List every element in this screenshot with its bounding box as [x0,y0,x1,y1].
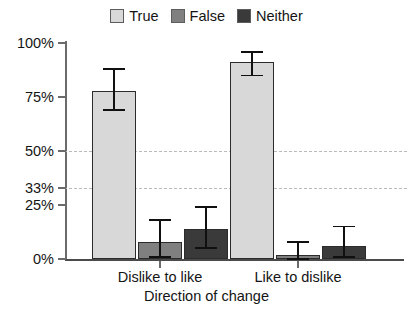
x-axis-line [65,259,404,261]
plot-area: 100%75%50%33%25%0% Dislike to likeLike t… [0,0,413,314]
bar-true-group-2 [230,62,274,259]
error-bar-stem [113,69,115,110]
error-bar-cap-lower [195,247,217,249]
error-bar-cap-lower [103,109,125,111]
error-bar-stem [251,52,253,76]
y-axis-tick [58,42,66,44]
error-bar-stem [343,227,345,257]
error-bar-cap-upper [149,219,171,221]
x-axis-tick [297,261,299,268]
x-axis-category-label: Dislike to like [118,270,203,285]
y-axis-tick-label: 33% [25,181,54,195]
y-axis-tick-label: 25% [25,198,54,212]
error-bar-cap-upper [333,226,355,228]
error-bar-stem [297,242,299,259]
y-axis-tick-label: 0% [33,252,54,266]
y-axis-tick-label: 100% [17,36,54,50]
error-bar-cap-upper [287,241,309,243]
bar-chart-figure: True False Neither 100%75%50%33%25%0% Di… [0,0,413,314]
y-axis-tick [58,187,66,189]
x-axis-title: Direction of change [0,289,413,304]
error-bar-cap-lower [241,75,263,77]
error-bar-cap-lower [333,256,355,258]
y-axis-tick-label: 75% [25,90,54,104]
y-axis-tick [58,258,66,260]
y-axis-tick [58,96,66,98]
error-bar-stem [205,207,207,248]
x-axis-tick [159,261,161,268]
y-axis-tick-label: 50% [25,144,54,158]
error-bar-cap-upper [195,206,217,208]
y-axis-tick [58,204,66,206]
error-bar-cap-lower [287,258,309,260]
y-axis-tick [58,150,66,152]
x-axis-category-label: Like to dislike [254,270,341,285]
error-bar-cap-upper [241,51,263,53]
bar-true-group-1 [92,91,136,259]
error-bar-cap-upper [103,68,125,70]
error-bar-stem [159,220,161,257]
error-bar-cap-lower [149,256,171,258]
